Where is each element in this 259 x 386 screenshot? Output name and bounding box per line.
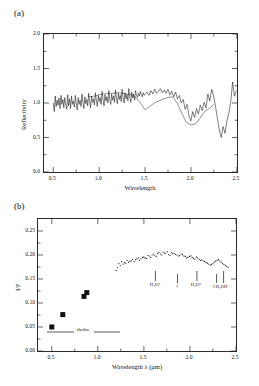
panel-a-xtick-2: 1.5 (134, 175, 154, 181)
panel-b-ytick-5: 0.25 (12, 227, 35, 233)
panel-a-x-axis-title: Wavelength (90, 184, 190, 191)
panel-b-y-ticks (38, 231, 236, 351)
panel-b-y-axis-title: I/F (14, 283, 21, 291)
panel-b: (b) I/F (0, 193, 259, 386)
panel-a-ytick-4: 2.0 (20, 30, 40, 36)
panel-a-ytick-0: 0.0 (20, 168, 40, 174)
panel-b-ytick-2: 0.10 (12, 299, 35, 305)
panel-a-xtick-0: 0.5 (42, 175, 62, 181)
panel-a-xtick-1: 1.0 (88, 175, 108, 181)
panel-b-square-points (49, 290, 89, 329)
panel-a-x-ticks (53, 34, 237, 172)
panel-a-label: (a) (14, 8, 24, 18)
panel-b-xtick-3: 2.0 (179, 354, 199, 360)
panel-b-xtick-1: 1.0 (87, 354, 107, 360)
panel-a-ytick-1: 0.5 (20, 134, 40, 140)
panel-a: (a) Reflectivity (0, 0, 259, 193)
panel-b-ytick-4: 0.20 (12, 251, 35, 257)
panel-a-ytick-3: 1.5 (20, 65, 40, 71)
panel-a-plot-area (43, 33, 238, 173)
figure-root: (a) Reflectivity (0, 0, 259, 386)
panel-b-spectrum-points (116, 251, 229, 271)
panel-a-xtick-4: 2.5 (226, 175, 246, 181)
panel-b-ytick-0: 0.00 (12, 347, 35, 353)
panel-a-ytick-2: 1.0 (20, 99, 40, 105)
panel-b-xtick-2: 1.5 (133, 354, 153, 360)
panel-b-ytick-3: 0.15 (12, 275, 35, 281)
panel-b-xtick-4: 2.5 (225, 354, 245, 360)
panel-b-x-axis-title: Wavelength λ (μm) (87, 363, 187, 370)
panel-b-label: (b) (14, 201, 25, 211)
panel-b-annotation-ch3oh: CH₃OH (203, 284, 237, 289)
panel-a-canvas (44, 34, 237, 172)
panel-b-xtick-0: 0.5 (41, 354, 61, 360)
panel-b-tholin-label: tholin (77, 327, 89, 332)
panel-b-ytick-1: 0.05 (12, 323, 35, 329)
panel-a-xtick-3: 2.0 (180, 175, 200, 181)
